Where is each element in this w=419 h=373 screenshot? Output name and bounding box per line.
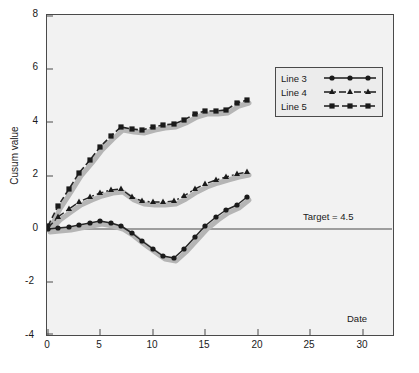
plot-svg [47, 15, 393, 335]
legend-entry-line4: Line 4 [281, 85, 378, 99]
y-tick-neg4: -4 [4, 329, 34, 340]
x-tick-10: 10 [137, 339, 167, 350]
legend-sample-line3 [322, 71, 378, 85]
legend-label-line5: Line 5 [281, 101, 322, 112]
y-tick-2: 2 [8, 168, 38, 179]
triangle-marker-icon [329, 89, 335, 94]
legend-entry-line3: Line 3 [281, 71, 378, 85]
plot-area: Target = 4.5 Date Line 3 Line 4 [46, 14, 394, 336]
y-tick-neg2: -2 [4, 275, 34, 286]
x-axis-label: Date [347, 313, 367, 324]
legend-label-line4: Line 4 [281, 87, 322, 98]
y-tick-6: 6 [8, 61, 38, 72]
y-tick-4: 4 [8, 115, 38, 126]
series-line3-shadow [50, 200, 249, 261]
legend-label-line3: Line 3 [281, 73, 322, 84]
legend-sample-line5 [322, 99, 378, 113]
cusum-chart: Cusum plot Cusum value 8 6 4 2 0 -2 -4 0… [0, 0, 419, 373]
legend-entry-line5: Line 5 [281, 99, 378, 113]
x-tick-0: 0 [32, 339, 62, 350]
axis-ticks [47, 16, 363, 335]
target-annotation: Target = 4.5 [303, 211, 353, 222]
square-marker-icon [329, 103, 334, 108]
x-tick-30: 30 [347, 339, 377, 350]
x-tick-20: 20 [242, 339, 272, 350]
legend-sample-line4 [322, 85, 378, 99]
y-tick-0: 0 [8, 222, 38, 233]
legend: Line 3 Line 4 [275, 67, 383, 117]
x-tick-5: 5 [84, 339, 114, 350]
x-tick-25: 25 [294, 339, 324, 350]
y-tick-8: 8 [8, 8, 38, 19]
x-tick-15: 15 [189, 339, 219, 350]
series-line5-shadow [50, 103, 249, 229]
y-axis-label: Cusum value [9, 96, 20, 216]
circle-marker-icon [329, 75, 334, 80]
